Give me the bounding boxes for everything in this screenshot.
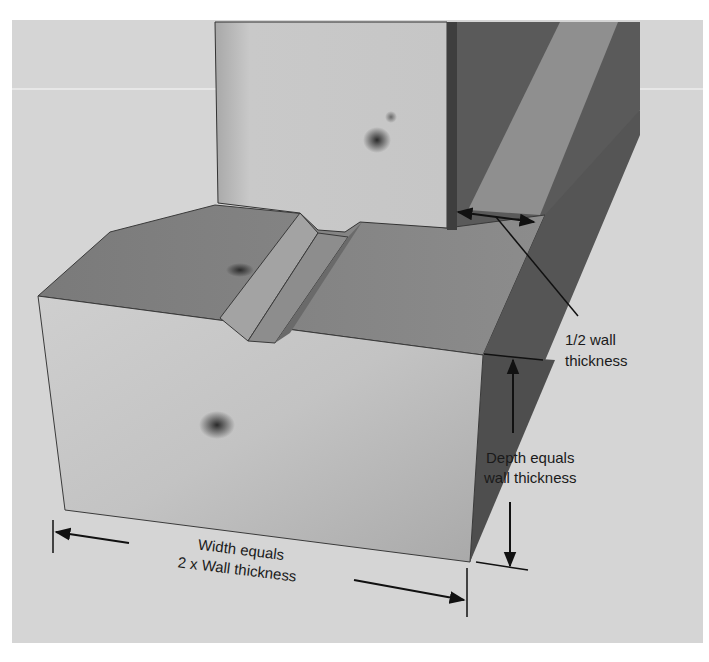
half-wall-label-line2: thickness (565, 352, 628, 369)
wall-spot-small (385, 111, 397, 123)
upper-wall-side (447, 22, 457, 230)
wall-spot (363, 127, 391, 153)
top-surface-spot (226, 263, 254, 277)
depth-label-line2: wall thickness (483, 469, 577, 486)
depth-label-line1: Depth equals (486, 449, 574, 466)
half-wall-label-line1: 1/2 wall (565, 331, 616, 348)
upper-wall-front-face (215, 22, 447, 232)
footing-diagram: 1/2 wall thickness Depth equals wall thi… (0, 0, 709, 662)
front-face-spot (199, 411, 235, 439)
